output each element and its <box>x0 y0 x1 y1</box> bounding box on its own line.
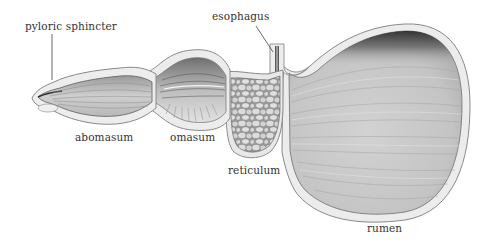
label-pyloric-sphincter: pyloric sphincter <box>25 21 117 32</box>
rumen-shape <box>282 24 470 222</box>
label-abomasum: abomasum <box>75 132 133 143</box>
omasum-shape <box>148 50 230 131</box>
ruminant-stomach-diagram: pyloric sphincter esophagus abomasum oma… <box>0 0 490 242</box>
label-reticulum: reticulum <box>228 165 280 176</box>
reticulum-shape <box>226 70 283 158</box>
label-esophagus: esophagus <box>212 11 269 22</box>
abomasum-shape <box>32 67 156 124</box>
label-omasum: omasum <box>170 132 215 143</box>
label-rumen: rumen <box>367 223 402 234</box>
stomach-illustration <box>0 0 490 242</box>
esophagus-leader-line <box>256 26 273 52</box>
